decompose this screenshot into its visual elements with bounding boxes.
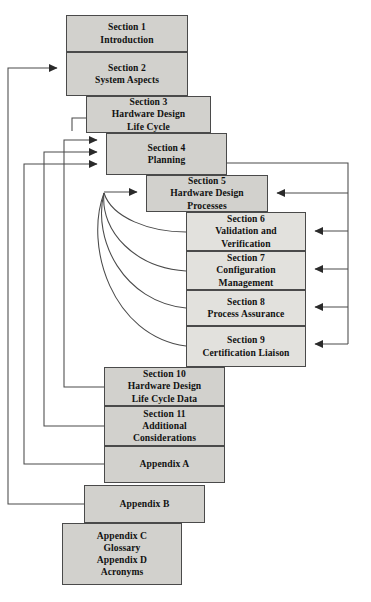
box-section-3-line-1: Section 3 xyxy=(130,96,168,108)
box-appendix-cd-line-4: Acronyms xyxy=(101,566,144,578)
box-section-1-line-2: Introduction xyxy=(100,34,153,46)
box-section-2-line-1: Section 2 xyxy=(108,62,146,74)
box-section-11: Section 11 Additional Considerations xyxy=(104,406,225,446)
box-section-5-line-1: Section 5 xyxy=(188,175,226,187)
box-section-4-line-2: Planning xyxy=(148,154,186,166)
box-appendix-cd-line-1: Appendix C xyxy=(97,530,147,542)
box-section-10-line-1: Section 10 xyxy=(143,368,186,380)
box-appendix-b: Appendix B xyxy=(84,485,205,523)
box-appendix-cd: Appendix C Glossary Appendix D Acronyms xyxy=(62,523,182,585)
box-section-1: Section 1 Introduction xyxy=(66,15,188,52)
box-section-10-line-2: Hardware Design xyxy=(128,380,202,392)
box-section-6: Section 6 Validation and Verification xyxy=(186,212,306,251)
wire-section11-to-section4 xyxy=(44,152,104,426)
box-section-7-line-2: Configuration xyxy=(216,264,275,276)
box-section-7-line-3: Management xyxy=(219,277,274,289)
box-appendix-a-line-1: Appendix A xyxy=(140,458,190,470)
box-section-4-line-1: Section 4 xyxy=(148,142,186,154)
box-appendix-cd-line-3: Appendix D xyxy=(97,554,147,566)
box-appendix-a: Appendix A xyxy=(104,446,225,483)
box-section-5-line-2: Hardware Design xyxy=(170,187,244,199)
box-section-7-line-1: Section 7 xyxy=(227,252,265,264)
box-section-10: Section 10 Hardware Design Life Cycle Da… xyxy=(104,367,225,406)
box-section-6-line-3: Verification xyxy=(221,238,270,250)
box-section-3-line-2: Hardware Design xyxy=(112,108,186,120)
box-section-2-line-2: System Aspects xyxy=(95,74,159,86)
box-section-11-line-1: Section 11 xyxy=(143,408,185,420)
box-section-6-line-2: Validation and xyxy=(215,225,277,237)
box-section-3: Section 3 Hardware Design Life Cycle xyxy=(86,96,211,133)
wire-section10-to-section4 xyxy=(64,140,104,387)
box-section-10-line-3: Life Cycle Data xyxy=(132,393,197,405)
box-section-2: Section 2 System Aspects xyxy=(66,52,188,96)
box-section-9-line-1: Section 9 xyxy=(227,334,265,346)
wire-section3-to-section4-stub xyxy=(72,118,86,131)
box-section-9-line-2: Certification Liaison xyxy=(202,347,289,359)
box-section-11-line-3: Considerations xyxy=(133,432,196,444)
box-section-8-line-1: Section 8 xyxy=(227,296,265,308)
box-section-5-line-3: Processes xyxy=(187,200,227,212)
box-section-8: Section 8 Process Assurance xyxy=(186,290,306,326)
box-section-8-line-2: Process Assurance xyxy=(208,308,285,320)
diagram-canvas: Section 1 Introduction Section 2 System … xyxy=(0,0,371,602)
box-section-11-line-2: Additional xyxy=(142,420,187,432)
box-appendix-b-line-1: Appendix B xyxy=(120,498,170,510)
box-appendix-cd-line-2: Glossary xyxy=(103,542,140,554)
box-section-4: Section 4 Planning xyxy=(106,133,227,175)
box-section-9: Section 9 Certification Liaison xyxy=(186,326,306,367)
box-section-6-line-1: Section 6 xyxy=(227,213,265,225)
box-section-7: Section 7 Configuration Management xyxy=(186,251,306,290)
wire-appendixb-to-section2 xyxy=(8,68,84,504)
box-section-1-line-1: Section 1 xyxy=(108,21,146,33)
box-section-5: Section 5 Hardware Design Processes xyxy=(146,175,268,212)
box-section-3-line-3: Life Cycle xyxy=(127,121,170,133)
